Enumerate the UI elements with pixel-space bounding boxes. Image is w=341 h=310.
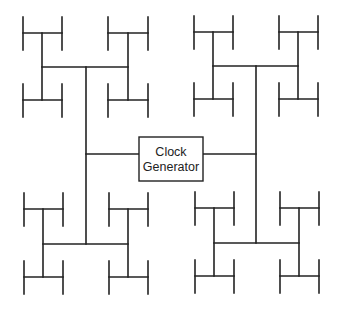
clock-generator-label-line2: Generator <box>143 160 199 174</box>
clock-generator-block: Clock Generator <box>139 137 203 181</box>
clock-generator-label-line1: Clock <box>155 145 187 159</box>
h-tree-diagram: Clock Generator <box>0 0 341 310</box>
quadrant-bottom-right <box>195 192 319 293</box>
